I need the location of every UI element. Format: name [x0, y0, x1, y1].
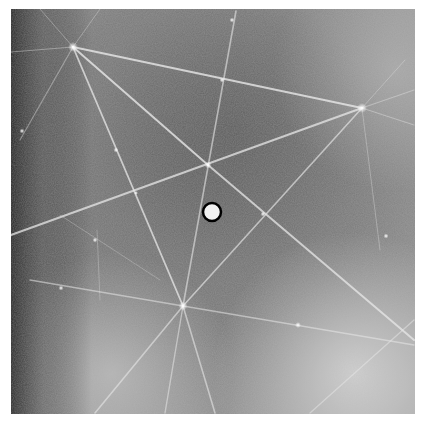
diffraction-image [11, 9, 415, 414]
beam-stop [203, 203, 221, 221]
